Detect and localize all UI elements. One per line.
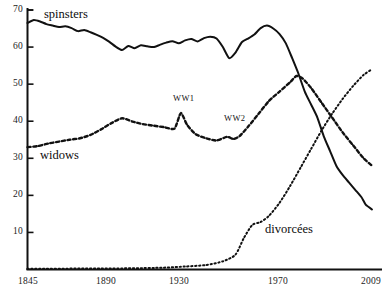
x-tick-label-1930: 1930 [159,276,199,286]
y-tick-label-50: 50 [2,78,23,88]
series-line-spinsters [28,20,373,209]
series-label-spinsters: spinsters [44,7,88,22]
series-label-divorcees: divorcées [265,222,313,237]
series-label-widows: widows [40,148,79,163]
y-tick-label-60: 60 [2,41,23,51]
y-tick-label-10: 10 [2,226,23,236]
y-tick-label-70: 70 [2,4,23,14]
x-tick-label-2009: 2009 [351,276,389,286]
chart-container: 70 60 50 40 30 20 10 1845 1890 1930 1970… [0,0,389,296]
y-tick-label-40: 40 [2,115,23,125]
annotation-ww2: WW2 [224,113,246,123]
x-tick-label-1890: 1890 [86,276,126,286]
annotation-ww1: WW1 [173,93,195,103]
y-tick-label-20: 20 [2,189,23,199]
series-line-widows [28,76,373,166]
chart-series-group [28,20,373,269]
y-tick-label-30: 30 [2,152,23,162]
x-tick-label-1845: 1845 [8,276,48,286]
x-tick-label-1970: 1970 [258,276,298,286]
